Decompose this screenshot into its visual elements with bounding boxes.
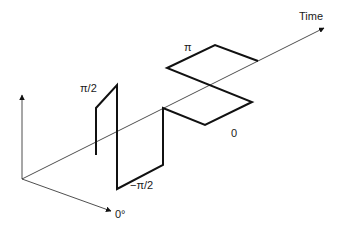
phase-label-minus-pi-over-2: −π/2 (130, 179, 153, 191)
phase-label-pi: π (184, 41, 192, 53)
time-axis-label: Time (299, 10, 323, 22)
phase-diagram: Time 0° π/2 −π/2 π 0 (0, 0, 337, 238)
phase-waveform (96, 45, 258, 189)
time-axis (22, 28, 324, 179)
phase-label-pi-over-2: π/2 (80, 82, 97, 94)
zero-degree-label: 0° (115, 208, 126, 220)
phase-label-zero: 0 (231, 127, 237, 139)
zero-degree-axis (22, 179, 111, 211)
